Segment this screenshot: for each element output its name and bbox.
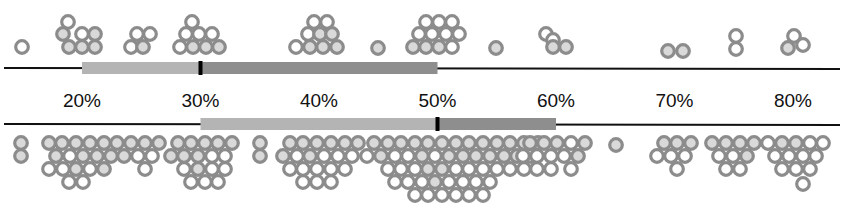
data-point [727,150,740,163]
data-point [762,137,775,150]
data-point [531,150,544,163]
data-point [193,28,206,41]
data-point [375,150,388,163]
tick-label: 70% [655,90,693,111]
data-point [57,28,70,41]
data-point [98,137,111,150]
data-point [361,150,374,163]
data-point [346,150,359,163]
data-point [671,163,684,176]
data-point [436,163,449,176]
data-point [213,41,226,54]
data-point [804,137,817,150]
data-point [199,137,212,150]
data-point [16,41,29,54]
data-point [139,137,152,150]
data-point [325,137,338,150]
data-point [284,163,297,176]
data-point [545,163,558,176]
data-point [144,28,157,41]
data-point [797,178,810,191]
data-point [817,137,830,150]
data-point [153,137,166,150]
data-point [206,28,219,41]
upper-series-dots [16,16,810,58]
data-point [311,137,324,150]
data-point [491,163,504,176]
data-point [311,163,324,176]
data-point [426,28,439,41]
data-point [416,150,429,163]
data-point [790,137,803,150]
data-point [318,150,331,163]
data-point [463,163,476,176]
data-point [804,163,817,176]
tick-label: 30% [181,90,219,111]
data-point [291,150,304,163]
data-point [339,137,352,150]
data-point [15,137,28,150]
data-point [484,150,497,163]
data-point [98,163,111,176]
data-point [776,137,789,150]
data-point [416,176,429,189]
data-point [131,28,144,41]
data-point [178,163,191,176]
data-point [734,137,747,150]
data-point [420,41,433,54]
data-point [440,28,453,41]
data-point [413,28,426,41]
data-point [226,137,239,150]
data-point [572,150,585,163]
data-point [402,150,415,163]
data-point [192,150,205,163]
data-point [199,176,212,189]
data-point [436,189,449,202]
data-point [332,150,345,163]
data-point [15,150,28,163]
data-point [517,150,530,163]
data-point [463,137,476,150]
data-point [790,163,803,176]
data-point [331,41,344,54]
data-point [518,163,531,176]
tick-label: 40% [300,90,338,111]
data-point [64,150,77,163]
data-point [372,42,385,55]
data-point [297,137,310,150]
data-point [105,150,118,163]
data-point [174,41,187,54]
data-point [89,28,102,41]
data-point [326,28,339,41]
data-point [436,137,449,150]
data-point [490,42,503,55]
data-point [57,163,70,176]
data-point [290,41,303,54]
data-point [463,189,476,202]
data-point [677,45,690,58]
data-point [457,150,470,163]
tick-label: 20% [63,90,101,111]
data-point [219,163,232,176]
data-point [139,163,152,176]
data-point [422,137,435,150]
data-point [125,137,138,150]
data-point [206,150,219,163]
data-point [50,150,63,163]
data-point [254,150,267,163]
data-point [77,176,90,189]
data-point [477,137,490,150]
data-point [651,150,664,163]
data-point [491,137,504,150]
data-point [558,150,571,163]
data-point [443,176,456,189]
data-point [56,137,69,150]
data-point [734,163,747,176]
data-point [212,176,225,189]
data-point [84,163,97,176]
lower-median-tick [436,117,440,131]
data-point [297,163,310,176]
data-point [450,163,463,176]
data-point [395,137,408,150]
data-point [172,137,185,150]
